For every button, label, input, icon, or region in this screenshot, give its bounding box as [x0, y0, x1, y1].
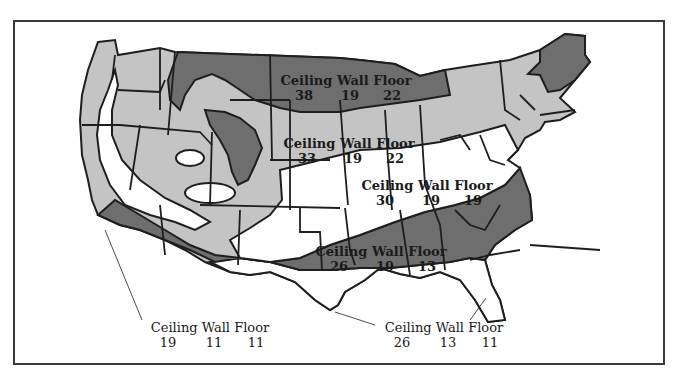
floor-value: 11	[467, 335, 513, 350]
us-insulation-map	[0, 0, 680, 382]
ceiling-value: 33	[280, 151, 334, 166]
floor-header: Floor	[234, 320, 269, 335]
wall-header: Wall	[340, 136, 372, 151]
wall-value: 13	[429, 335, 467, 350]
floor-header: Floor	[468, 320, 503, 335]
ceiling-header: Ceiling	[283, 136, 335, 151]
floor-value: 22	[372, 151, 418, 166]
floor-header: Floor	[454, 178, 492, 193]
wall-header: Wall	[418, 178, 450, 193]
wall-value: 19	[331, 88, 369, 103]
zone-label-north-central: Ceiling Wall Floor 381922	[277, 73, 415, 103]
zone-label-west-coast: Ceiling Wall Floor 191111	[141, 320, 279, 350]
wall-value: 11	[195, 335, 233, 350]
floor-header: Floor	[408, 244, 446, 259]
wall-value: 19	[366, 259, 404, 274]
zone-label-south-central: Ceiling Wall Floor 261913	[312, 244, 450, 274]
wall-header: Wall	[372, 244, 404, 259]
floor-value: 19	[450, 193, 496, 208]
ceiling-value: 26	[375, 335, 429, 350]
floor-value: 11	[233, 335, 279, 350]
white-island-1	[176, 150, 204, 166]
ceiling-value: 38	[277, 88, 331, 103]
ceiling-value: 26	[312, 259, 366, 274]
floor-value: 22	[369, 88, 415, 103]
floor-value: 13	[404, 259, 450, 274]
ceiling-header: Ceiling	[280, 73, 332, 88]
zone-label-gulf-south: Ceiling Wall Floor 261311	[375, 320, 513, 350]
floor-header: Floor	[376, 136, 414, 151]
ceiling-header: Ceiling	[385, 320, 432, 335]
wall-header: Wall	[337, 73, 369, 88]
floor-header: Floor	[373, 73, 411, 88]
zone-label-middle: Ceiling Wall Floor 301919	[358, 178, 496, 208]
ceiling-header: Ceiling	[151, 320, 198, 335]
ceiling-value: 19	[141, 335, 195, 350]
wall-header: Wall	[202, 320, 230, 335]
ceiling-header: Ceiling	[361, 178, 413, 193]
ceiling-value: 30	[358, 193, 412, 208]
wall-value: 19	[334, 151, 372, 166]
leader-line-gulf	[335, 312, 375, 325]
ceiling-header: Ceiling	[315, 244, 367, 259]
wall-header: Wall	[436, 320, 464, 335]
wall-value: 19	[412, 193, 450, 208]
leader-line-west	[105, 230, 142, 320]
zone-label-upper-middle: Ceiling Wall Floor 331922	[280, 136, 418, 166]
